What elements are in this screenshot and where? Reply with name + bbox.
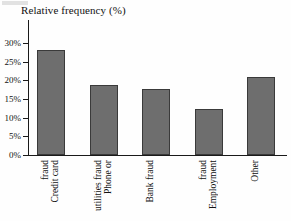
x-tick-label-line: utilities fraud [93, 160, 103, 211]
x-tick-label: Other [250, 160, 260, 220]
y-tick-mark [23, 118, 29, 119]
chart-title: Relative frequency (%) [21, 4, 126, 16]
x-tick-label-line: Other [250, 160, 260, 182]
x-tick-label: Bank fraud [145, 160, 155, 220]
y-tick-label: 25% [0, 57, 21, 67]
y-tick-mark [23, 136, 29, 137]
x-tick-label-line: Bank fraud [145, 160, 155, 202]
y-tick-label: 0% [0, 150, 21, 160]
x-tick-label: Employmentfraud [198, 160, 218, 220]
y-tick-label: 15% [0, 94, 21, 104]
bar [37, 50, 65, 155]
y-tick-label: 30% [0, 38, 21, 48]
x-tick-label-line: fraud [40, 160, 50, 180]
x-tick-label: Credit cardfraud [40, 160, 60, 220]
bar [90, 85, 118, 155]
y-tick-label: 5% [0, 131, 21, 141]
bar [195, 109, 223, 155]
y-tick-mark [23, 80, 29, 81]
x-tick-label: Phone orutilities fraud [93, 160, 113, 220]
y-tick-label: 20% [0, 75, 21, 85]
y-tick-mark [23, 155, 29, 156]
y-tick-mark [23, 43, 29, 44]
x-tick-label-line: fraud [198, 160, 208, 180]
y-tick-mark [23, 99, 29, 100]
bar [247, 77, 275, 155]
x-tick-label-line: Credit card [50, 160, 60, 202]
chart-figure: Relative frequency (%) 0%5%10%15%20%25%3… [0, 0, 291, 221]
x-axis-line [28, 155, 287, 156]
x-tick-label-line: Phone or [103, 160, 113, 194]
y-tick-label: 10% [0, 113, 21, 123]
x-tick-label-line: Employment [208, 160, 218, 209]
y-tick-mark [23, 62, 29, 63]
bar [142, 89, 170, 155]
